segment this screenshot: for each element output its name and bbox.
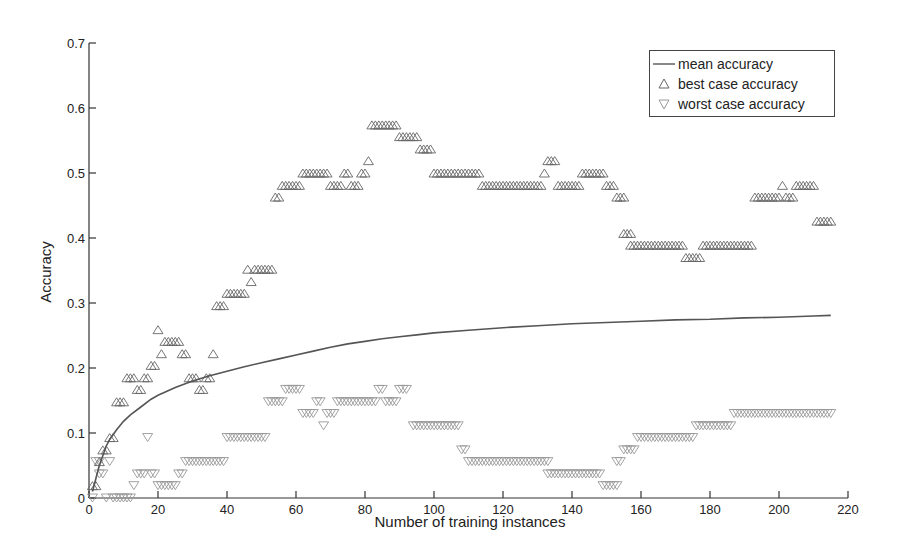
y-tick-label: 0.7 <box>67 36 85 51</box>
worst-case-marker <box>432 422 442 430</box>
worst-case-marker <box>771 410 781 418</box>
best-case-marker <box>753 193 763 201</box>
worst-case-marker <box>184 458 194 466</box>
worst-case-marker <box>626 446 636 454</box>
best-case-marker <box>281 181 291 189</box>
worst-case-marker <box>294 385 304 393</box>
best-case-marker <box>219 302 229 310</box>
best-case-marker <box>815 217 825 225</box>
worst-case-marker <box>636 434 646 442</box>
best-case-marker <box>546 157 556 165</box>
worst-case-marker <box>612 482 622 490</box>
best-case-marker <box>605 181 615 189</box>
best-case-marker <box>660 241 670 249</box>
best-case-marker <box>760 193 770 201</box>
best-case-marker <box>626 241 636 249</box>
best-case-marker <box>229 289 239 297</box>
best-case-marker <box>498 181 508 189</box>
best-case-marker <box>150 361 160 369</box>
worst-case-marker <box>484 458 494 466</box>
best-case-marker <box>305 169 315 177</box>
worst-case-marker <box>736 410 746 418</box>
worst-case-marker <box>250 434 260 442</box>
best-case-marker <box>215 302 225 310</box>
best-case-marker <box>795 181 805 189</box>
worst-case-marker <box>602 482 612 490</box>
worst-case-marker <box>805 410 815 418</box>
worst-case-marker <box>139 470 149 478</box>
worst-case-marker <box>408 422 418 430</box>
worst-case-marker <box>781 410 791 418</box>
worst-case-marker <box>729 410 739 418</box>
best-case-marker <box>533 181 543 189</box>
worst-case-marker <box>332 398 342 406</box>
best-case-marker <box>374 121 384 129</box>
worst-case-marker <box>450 422 460 430</box>
worst-case-marker <box>257 434 267 442</box>
best-case-marker <box>681 254 691 262</box>
best-case-marker <box>246 278 256 286</box>
worst-case-marker <box>543 458 553 466</box>
x-tick-label: 200 <box>768 502 790 517</box>
worst-case-marker <box>243 434 253 442</box>
best-case-marker <box>781 193 791 201</box>
worst-case-marker <box>105 458 115 466</box>
best-case-marker <box>567 181 577 189</box>
y-tick-label: 0.2 <box>67 361 85 376</box>
best-case-marker <box>626 229 636 237</box>
best-case-marker <box>615 193 625 201</box>
worst-case-marker <box>229 434 239 442</box>
worst-case-marker <box>557 470 567 478</box>
worst-case-marker <box>470 458 480 466</box>
best-case-marker <box>464 169 474 177</box>
best-case-marker <box>198 385 208 393</box>
worst-case-marker <box>812 410 822 418</box>
worst-case-marker <box>177 470 187 478</box>
worst-case-marker <box>188 458 198 466</box>
best-case-marker <box>395 133 405 141</box>
worst-case-marker <box>695 422 705 430</box>
best-case-marker <box>577 169 587 177</box>
best-case-marker <box>708 241 718 249</box>
best-case-marker <box>729 241 739 249</box>
best-case-marker <box>722 241 732 249</box>
worst-case-marker <box>260 434 270 442</box>
worst-case-marker <box>491 458 501 466</box>
best-case-marker <box>267 265 277 273</box>
best-case-marker <box>691 254 701 262</box>
worst-case-marker <box>388 398 398 406</box>
worst-case-marker <box>291 385 301 393</box>
worst-case-marker <box>664 434 674 442</box>
best-case-marker <box>370 121 380 129</box>
best-case-marker <box>408 133 418 141</box>
best-case-marker <box>322 169 332 177</box>
best-case-marker <box>557 181 567 189</box>
worst-case-marker <box>767 410 777 418</box>
best-case-marker <box>688 254 698 262</box>
best-case-marker <box>336 181 346 189</box>
best-case-marker <box>360 169 370 177</box>
worst-case-marker <box>708 422 718 430</box>
best-case-marker <box>260 265 270 273</box>
worst-case-marker <box>795 410 805 418</box>
worst-case-marker <box>481 458 491 466</box>
best-case-marker <box>388 121 398 129</box>
worst-case-marker <box>253 434 263 442</box>
worst-case-marker <box>746 410 756 418</box>
best-case-marker <box>774 193 784 201</box>
best-case-marker <box>564 181 574 189</box>
best-case-marker <box>622 229 632 237</box>
worst-case-marker <box>453 422 463 430</box>
best-case-marker <box>733 241 743 249</box>
worst-case-marker <box>401 385 411 393</box>
worst-case-marker <box>215 458 225 466</box>
best-case-marker <box>705 241 715 249</box>
best-case-marker <box>363 157 373 165</box>
best-case-marker <box>450 169 460 177</box>
worst-case-marker <box>629 446 639 454</box>
best-case-marker <box>156 350 166 358</box>
legend-label: mean accuracy <box>678 56 773 72</box>
best-case-marker <box>629 241 639 249</box>
best-case-marker <box>715 241 725 249</box>
worst-case-marker <box>205 458 215 466</box>
